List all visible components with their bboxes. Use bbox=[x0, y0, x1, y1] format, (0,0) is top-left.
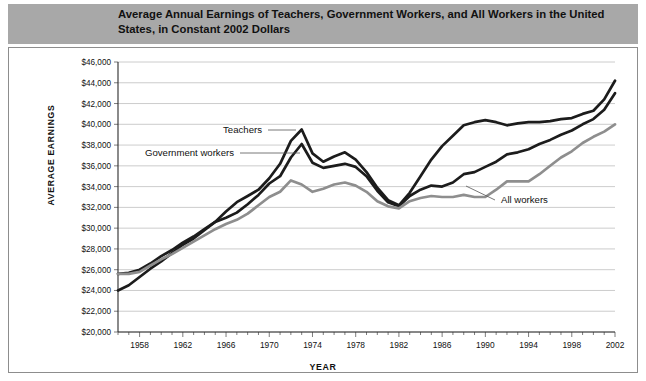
series-label-all-workers: All workers bbox=[501, 194, 548, 205]
series-label-government-workers: Government workers bbox=[145, 147, 234, 158]
series-line-teachers bbox=[118, 81, 615, 291]
x-tick-label: 1982 bbox=[390, 340, 409, 350]
x-tick-label: 1962 bbox=[174, 340, 193, 350]
series-label-teachers: Teachers bbox=[223, 124, 262, 135]
y-tick-label: $42,000 bbox=[81, 100, 111, 109]
y-tick-label: $34,000 bbox=[81, 183, 111, 192]
x-tick-labels: 1958196219661970197419781982198619901994… bbox=[130, 340, 624, 350]
series-line-government-workers bbox=[118, 93, 615, 274]
y-tick-label: $22,000 bbox=[81, 307, 111, 316]
x-tick-label: 1970 bbox=[260, 340, 279, 350]
y-tick-label: $28,000 bbox=[81, 245, 111, 254]
y-tick-label: $32,000 bbox=[81, 203, 111, 212]
x-tick-label: 1958 bbox=[130, 340, 149, 350]
x-tick-label: 1974 bbox=[303, 340, 322, 350]
x-tick-label: 1998 bbox=[562, 340, 581, 350]
x-tick-marks bbox=[118, 332, 615, 337]
x-tick-label: 1966 bbox=[217, 340, 236, 350]
x-tick-label: 1978 bbox=[346, 340, 365, 350]
y-tick-label: $44,000 bbox=[81, 79, 111, 88]
y-tick-label: $40,000 bbox=[81, 120, 111, 129]
y-tick-label: $38,000 bbox=[81, 141, 111, 150]
series-lines bbox=[118, 81, 615, 291]
x-tick-label: 2002 bbox=[606, 340, 625, 350]
y-tick-label: $20,000 bbox=[81, 328, 111, 337]
x-tick-label: 1990 bbox=[476, 340, 495, 350]
y-tick-label: $30,000 bbox=[81, 224, 111, 233]
y-tick-label: $46,000 bbox=[81, 58, 111, 67]
y-tick-label: $24,000 bbox=[81, 286, 111, 295]
y-tick-label: $26,000 bbox=[81, 266, 111, 275]
y-tick-label: $36,000 bbox=[81, 162, 111, 171]
x-tick-label: 1986 bbox=[433, 340, 452, 350]
figure-container: Figure 1.2 Average Annual Earnings of Te… bbox=[0, 0, 646, 381]
line-chart: $46,000$44,000$42,000$40,000$38,000$36,0… bbox=[0, 0, 646, 381]
x-tick-label: 1994 bbox=[519, 340, 538, 350]
y-tick-labels: $46,000$44,000$42,000$40,000$38,000$36,0… bbox=[81, 58, 111, 337]
